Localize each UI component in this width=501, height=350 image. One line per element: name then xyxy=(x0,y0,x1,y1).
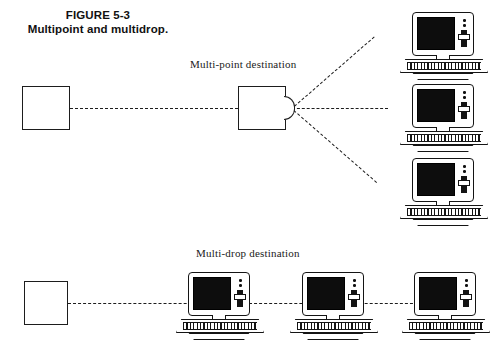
drive-panel-icon xyxy=(460,277,473,310)
indicator-led-icon xyxy=(239,279,242,282)
keyboard-keys xyxy=(409,322,483,330)
indicator-led-icon xyxy=(463,24,466,27)
figure-caption-number: FIGURE 5-3 xyxy=(0,8,196,22)
monitor-icon xyxy=(412,158,474,202)
drive-knob-icon xyxy=(348,294,360,300)
keyboard-icon xyxy=(402,319,490,333)
indicator-led-icon xyxy=(463,19,466,22)
indicator-led-icon xyxy=(465,284,468,287)
base-plinth xyxy=(410,219,476,226)
drive-knob-icon xyxy=(458,106,470,112)
indicator-led-icon xyxy=(353,284,356,287)
indicator-led-icon xyxy=(463,165,466,168)
fanout-node-icon xyxy=(284,96,296,120)
multidrop-section-label: Multi-drop destination xyxy=(196,247,300,259)
monitor-icon xyxy=(412,12,474,56)
drive-knob-icon xyxy=(460,294,472,300)
base-plinth xyxy=(410,73,476,80)
multipoint-source-box xyxy=(22,86,70,130)
multipoint-branch-lower xyxy=(293,110,377,183)
screen-icon xyxy=(417,17,455,50)
base-plinth xyxy=(186,333,252,340)
keyboard-icon xyxy=(400,131,488,145)
monitor-icon xyxy=(414,272,476,316)
fanout-disc xyxy=(284,96,295,120)
computer-workstation-icon xyxy=(172,272,268,342)
indicator-led-icon xyxy=(465,279,468,282)
indicator-led-icon xyxy=(463,170,466,173)
keyboard-keys xyxy=(183,322,257,330)
drive-panel-icon xyxy=(458,89,471,122)
figure-canvas: FIGURE 5-3 Multipoint and multidrop. Mul… xyxy=(0,0,501,350)
keyboard-keys xyxy=(407,134,481,142)
drive-knob-icon xyxy=(234,294,246,300)
computer-workstation-icon xyxy=(396,12,492,82)
screen-icon xyxy=(417,163,455,196)
keyboard-keys xyxy=(407,208,481,216)
base-plinth xyxy=(412,333,478,340)
screen-icon xyxy=(417,89,455,122)
indicator-led-icon xyxy=(463,96,466,99)
computer-workstation-icon xyxy=(396,84,492,154)
computer-workstation-icon xyxy=(398,272,494,342)
figure-caption-title: Multipoint and multidrop. xyxy=(0,22,196,36)
monitor-icon xyxy=(188,272,250,316)
indicator-led-icon xyxy=(463,91,466,94)
drive-panel-icon xyxy=(458,163,471,196)
drive-knob-icon xyxy=(458,34,470,40)
multipoint-branch-middle xyxy=(292,108,388,109)
screen-icon xyxy=(193,277,231,310)
multipoint-junction-box xyxy=(238,86,286,130)
drive-knob-icon xyxy=(458,180,470,186)
keyboard-icon xyxy=(176,319,264,333)
computer-workstation-icon xyxy=(396,158,492,228)
monitor-icon xyxy=(412,84,474,128)
indicator-led-icon xyxy=(353,279,356,282)
base-plinth xyxy=(300,333,366,340)
multipoint-branch-upper xyxy=(294,36,375,106)
keyboard-keys xyxy=(297,322,371,330)
keyboard-icon xyxy=(290,319,378,333)
computer-workstation-icon xyxy=(286,272,382,342)
monitor-icon xyxy=(302,272,364,316)
screen-icon xyxy=(307,277,345,310)
indicator-led-icon xyxy=(239,284,242,287)
base-plinth xyxy=(410,145,476,152)
multipoint-section-label: Multi-point destination xyxy=(190,58,296,70)
drive-panel-icon xyxy=(348,277,361,310)
keyboard-icon xyxy=(400,59,488,73)
multidrop-source-box xyxy=(24,281,68,325)
drive-panel-icon xyxy=(234,277,247,310)
keyboard-keys xyxy=(407,62,481,70)
figure-caption: FIGURE 5-3 Multipoint and multidrop. xyxy=(0,8,196,36)
keyboard-icon xyxy=(400,205,488,219)
screen-icon xyxy=(419,277,457,310)
multipoint-source-link xyxy=(70,108,238,109)
drive-panel-icon xyxy=(458,17,471,50)
